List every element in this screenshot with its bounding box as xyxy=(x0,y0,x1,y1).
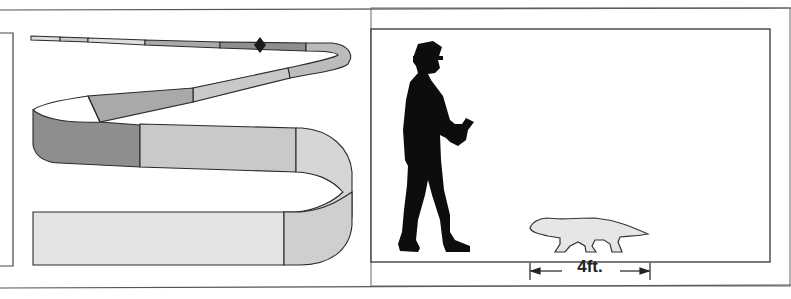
scale-label: 4ft. xyxy=(560,257,620,277)
ribbon-seg xyxy=(33,212,284,265)
ribbon-seg xyxy=(88,88,193,122)
ribbon-seg xyxy=(284,192,352,265)
ribbon-seg xyxy=(60,37,88,42)
ribbon-edge xyxy=(33,96,88,110)
illustration xyxy=(0,0,791,299)
left-partial-frame xyxy=(0,33,13,266)
ribbon-seg xyxy=(140,124,296,172)
ribbon-seg xyxy=(193,68,290,102)
ribbon-seg xyxy=(88,38,145,45)
range-ribbon xyxy=(31,36,352,265)
ribbon-seg xyxy=(145,40,220,48)
diamond-marker-icon xyxy=(254,37,266,53)
ribbon-seg xyxy=(31,36,60,41)
